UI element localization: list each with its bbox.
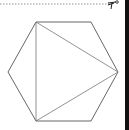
- hexagon: [8, 22, 118, 121]
- edge-bar: [125, 0, 129, 130]
- inscribed-triangle: [36, 22, 118, 121]
- hexagon-diagram: [0, 0, 129, 130]
